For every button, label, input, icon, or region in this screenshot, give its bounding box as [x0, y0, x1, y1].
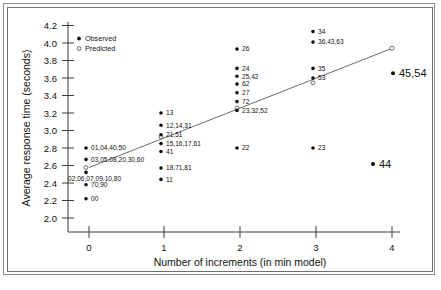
data-point[interactable] [235, 47, 239, 51]
x-tick-label: 0 [86, 242, 91, 253]
data-point[interactable] [84, 183, 88, 187]
data-point[interactable] [235, 74, 239, 78]
x-tick-labels: 0 1 2 3 4 [86, 242, 394, 253]
data-point-label: 70,90 [91, 181, 108, 188]
data-point[interactable] [311, 40, 315, 44]
data-point[interactable] [159, 178, 163, 182]
data-point[interactable] [235, 146, 239, 150]
data-group-x4: 45,54 44 [371, 46, 427, 170]
data-group-x2: 26 24 25,42 62 27 72 23,32,52 22 [235, 45, 268, 151]
data-group-x1: 13 12,14,31 21,51 15,16,17,61 41 18,71,8… [159, 109, 201, 182]
data-point[interactable] [159, 133, 163, 137]
x-axis-title: Number of increments (in min model) [154, 256, 327, 268]
x-tick-label: 4 [389, 242, 394, 253]
y-tick-labels: 4.2 4.0 3.8 3.6 3.4 3.2 3.0 2.8 2.6 2.4 … [44, 20, 57, 224]
data-point[interactable] [235, 67, 239, 71]
data-point[interactable] [235, 109, 239, 113]
data-point[interactable] [159, 150, 163, 154]
data-point-label: 15,16,17,61 [166, 140, 201, 147]
data-point[interactable] [84, 197, 88, 201]
data-group-x3: 34 36,43,63 35 53 23 [311, 28, 344, 151]
legend-label-observed: Observed [85, 34, 116, 43]
y-tick-label: 3.4 [44, 90, 57, 101]
data-point-label: 41 [166, 148, 174, 155]
plot-svg: 4.2 4.0 3.8 3.6 3.4 3.2 3.0 2.8 2.6 2.4 … [0, 0, 441, 290]
data-point-label: 62 [242, 80, 250, 87]
y-tick-label: 4.2 [44, 20, 57, 31]
data-point[interactable] [235, 82, 239, 86]
data-point-label: 22 [242, 144, 250, 151]
data-point-label: 35 [318, 65, 326, 72]
data-point[interactable] [235, 91, 239, 95]
y-tick-label: 2.4 [44, 178, 57, 189]
y-tick-label: 2.2 [44, 195, 57, 206]
scatter-plot: 4.2 4.0 3.8 3.6 3.4 3.2 3.0 2.8 2.6 2.4 … [0, 0, 441, 290]
x-tick-label: 1 [161, 242, 166, 253]
y-tick-label: 3.2 [44, 108, 57, 119]
y-axis-title: Average response time (seconds) [20, 50, 32, 207]
data-point[interactable] [311, 146, 315, 150]
data-point-label: 12,14,31 [166, 122, 192, 129]
data-point-label: 00 [91, 195, 99, 202]
data-point[interactable] [371, 162, 375, 166]
data-point-label: 45,54 [399, 67, 427, 79]
data-point[interactable] [84, 158, 88, 162]
data-point-label: 21,51 [166, 131, 183, 138]
data-point[interactable] [159, 142, 163, 146]
data-point[interactable] [159, 123, 163, 127]
data-point[interactable] [311, 67, 315, 71]
data-point-label: 34 [318, 28, 326, 35]
data-point[interactable] [235, 100, 239, 104]
data-point-label: 11 [166, 176, 173, 183]
y-tick-label: 2.8 [44, 143, 57, 154]
data-point-label: 03,05,08,20,30,60 [91, 156, 144, 163]
data-point[interactable] [311, 30, 315, 34]
x-tick-label: 3 [313, 242, 318, 253]
data-point-label: 26 [242, 45, 250, 52]
data-point-label: 24 [242, 65, 250, 72]
data-point-label: 25,42 [242, 73, 259, 80]
data-point[interactable] [159, 111, 163, 115]
figure-container: 4.2 4.0 3.8 3.6 3.4 3.2 3.0 2.8 2.6 2.4 … [0, 0, 441, 290]
y-axis [62, 22, 74, 232]
data-point-predicted[interactable] [84, 166, 88, 170]
data-point[interactable] [84, 146, 88, 150]
data-point-label: 27 [242, 89, 250, 96]
data-point[interactable] [391, 71, 395, 75]
data-point-label: 53 [318, 74, 326, 81]
legend-label-predicted: Predicted [85, 44, 115, 53]
data-point[interactable] [159, 166, 163, 170]
data-point-predicted[interactable] [390, 46, 394, 50]
y-tick-label: 2.6 [44, 160, 57, 171]
data-point-label: 01,04,40,50 [91, 144, 126, 151]
data-point-label: 44 [379, 158, 391, 170]
y-tick-label: 3.0 [44, 125, 57, 136]
data-point-label: 23,32,52 [242, 107, 268, 114]
data-point-label: 13 [166, 109, 174, 116]
data-point[interactable] [311, 76, 315, 80]
y-tick-label: 3.8 [44, 55, 57, 66]
data-point-predicted[interactable] [311, 81, 315, 85]
data-group-x0: 01,04,40,50 03,05,08,20,30,60 02,06,07,0… [68, 144, 144, 202]
data-point-label: 18,71,81 [166, 164, 192, 171]
data-point-label: 36,43,63 [318, 38, 344, 45]
y-tick-label: 4.0 [44, 38, 57, 49]
x-tick-label: 2 [237, 242, 242, 253]
y-tick-label: 3.6 [44, 73, 57, 84]
data-point-label: 72 [242, 98, 250, 105]
trend-line [89, 48, 392, 167]
x-axis [68, 226, 400, 238]
y-tick-label: 2.0 [44, 213, 57, 224]
legend: Observed Predicted [77, 34, 116, 53]
legend-marker-observed-icon [77, 37, 81, 41]
legend-marker-predicted-icon [77, 47, 81, 51]
data-point-label: 23 [318, 144, 326, 151]
